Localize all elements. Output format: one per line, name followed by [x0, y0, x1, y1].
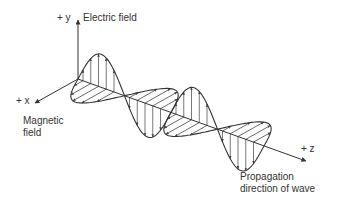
magnetic-vector-arrow	[164, 117, 184, 128]
z-axis-label: + z	[301, 143, 315, 155]
x-axis-label: + x	[16, 95, 30, 107]
propagation-label-line2: direction of wave	[240, 183, 315, 195]
magnetic-field-vectors	[71, 81, 271, 142]
magnetic-vector-arrow	[166, 120, 192, 134]
magnetic-vector-arrow	[71, 84, 91, 95]
magnetic-vector-arrow	[153, 92, 178, 106]
magnetic-field-label-line2: field	[23, 127, 41, 139]
magnetic-vector-arrow	[246, 125, 271, 139]
z-axis	[78, 79, 306, 161]
y-axis-label: + y	[57, 12, 71, 24]
propagation-label-line1: Propagation	[240, 171, 294, 183]
electric-field-label: Electric field	[83, 12, 137, 24]
magnetic-vector-arrow	[73, 86, 99, 100]
magnetic-field-label-line1: Magnetic	[23, 115, 64, 127]
